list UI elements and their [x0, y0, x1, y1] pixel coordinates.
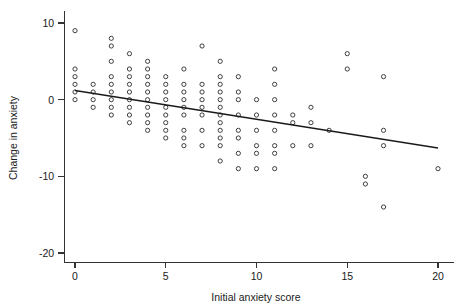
data-point	[127, 121, 131, 125]
data-point	[200, 82, 204, 86]
data-point	[182, 90, 186, 94]
data-point	[109, 82, 113, 86]
data-point	[127, 67, 131, 71]
y-tick-label: 10	[42, 17, 54, 29]
data-point	[345, 52, 349, 56]
data-point	[73, 75, 77, 79]
data-point	[91, 98, 95, 102]
data-point	[91, 82, 95, 86]
data-point	[73, 98, 77, 102]
data-point	[218, 159, 222, 163]
data-point	[164, 105, 168, 109]
data-point	[254, 113, 258, 117]
data-point	[73, 29, 77, 33]
data-point	[309, 121, 313, 125]
data-point	[164, 121, 168, 125]
data-point	[363, 174, 367, 178]
data-point	[200, 144, 204, 148]
data-point	[127, 105, 131, 109]
data-point	[182, 113, 186, 117]
data-point	[91, 105, 95, 109]
data-point	[363, 182, 367, 186]
data-point	[146, 82, 150, 86]
data-point	[436, 167, 440, 171]
data-point	[146, 59, 150, 63]
data-point	[164, 128, 168, 132]
data-point	[200, 44, 204, 48]
data-point	[200, 90, 204, 94]
data-point	[273, 98, 277, 102]
data-point	[236, 151, 240, 155]
data-point	[182, 98, 186, 102]
data-point	[182, 136, 186, 140]
data-point	[291, 113, 295, 117]
data-point	[273, 113, 277, 117]
data-point	[73, 67, 77, 71]
data-point	[236, 98, 240, 102]
data-point	[127, 90, 131, 94]
data-point	[218, 98, 222, 102]
x-tick-label: 20	[432, 270, 444, 282]
data-point	[182, 128, 186, 132]
data-point	[200, 128, 204, 132]
data-point	[146, 128, 150, 132]
data-point	[146, 121, 150, 125]
data-point	[127, 75, 131, 79]
data-point	[146, 105, 150, 109]
regression-line	[75, 90, 438, 147]
data-point	[73, 82, 77, 86]
data-point	[309, 144, 313, 148]
data-point	[164, 98, 168, 102]
data-point	[309, 105, 313, 109]
data-point	[109, 90, 113, 94]
data-point	[164, 113, 168, 117]
data-point	[218, 75, 222, 79]
data-point	[381, 75, 385, 79]
data-point	[236, 136, 240, 140]
data-point	[381, 144, 385, 148]
y-tick-label: 0	[48, 94, 54, 106]
data-point	[273, 167, 277, 171]
x-tick-label: 15	[341, 270, 353, 282]
data-point	[200, 113, 204, 117]
data-point	[273, 151, 277, 155]
data-point	[254, 128, 258, 132]
data-point	[109, 113, 113, 117]
chart-canvas: 100-10-20 05101520 Initial anxiety score…	[0, 0, 465, 305]
data-point	[218, 105, 222, 109]
data-point	[218, 144, 222, 148]
data-point	[218, 121, 222, 125]
data-point	[182, 67, 186, 71]
data-point	[291, 144, 295, 148]
data-point	[218, 90, 222, 94]
data-point	[236, 90, 240, 94]
data-point	[200, 98, 204, 102]
y-axis-ticks: 100-10-20	[39, 17, 64, 259]
data-point	[164, 82, 168, 86]
data-point	[109, 36, 113, 40]
data-point	[236, 167, 240, 171]
data-point	[345, 67, 349, 71]
data-point	[146, 113, 150, 117]
data-point	[146, 75, 150, 79]
x-axis-title: Initial anxiety score	[211, 291, 300, 303]
x-axis-ticks: 05101520	[72, 262, 444, 282]
data-point	[127, 113, 131, 117]
data-point	[273, 144, 277, 148]
data-point	[381, 128, 385, 132]
data-point	[164, 136, 168, 140]
y-tick-label: -20	[39, 247, 54, 259]
data-point	[254, 167, 258, 171]
data-point	[254, 144, 258, 148]
data-point	[164, 75, 168, 79]
data-point	[236, 128, 240, 132]
y-tick-label: -10	[39, 170, 54, 182]
data-point	[273, 128, 277, 132]
data-point	[218, 128, 222, 132]
y-axis-title: Change in anxiety	[7, 95, 19, 180]
data-point	[182, 82, 186, 86]
x-tick-label: 10	[251, 270, 263, 282]
data-point	[109, 59, 113, 63]
data-point	[254, 151, 258, 155]
x-tick-label: 0	[72, 270, 78, 282]
